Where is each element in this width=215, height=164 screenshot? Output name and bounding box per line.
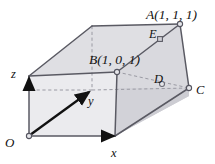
point-marker-B <box>114 69 119 74</box>
point-marker-E <box>158 37 163 42</box>
label-point-b: B(1, 0, 1) <box>89 53 140 67</box>
label-point-c: C <box>196 84 204 97</box>
geometry-figure: A(1, 1, 1) B(1, 0, 1) E D C O x y z <box>0 0 215 164</box>
cube-diagram-svg <box>0 0 215 164</box>
point-marker-C <box>186 85 191 90</box>
label-point-a: A(1, 1, 1) <box>146 8 197 22</box>
point-marker-O <box>26 133 31 138</box>
label-origin-o: O <box>5 136 14 149</box>
label-axis-y: y <box>88 95 94 108</box>
label-axis-z: z <box>11 68 16 81</box>
label-axis-x: x <box>111 147 117 160</box>
label-point-e: E <box>149 28 157 41</box>
label-point-d: D <box>154 73 163 86</box>
point-marker-A <box>177 21 182 26</box>
